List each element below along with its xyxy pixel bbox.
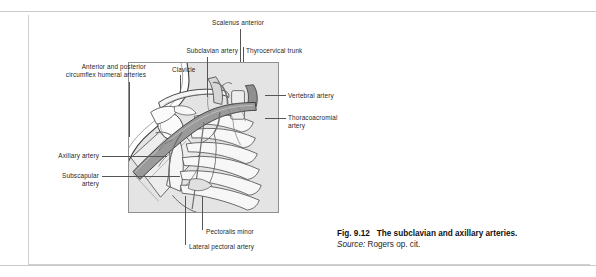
caption-source-label: Source: xyxy=(337,240,365,249)
label-circumflex-humeral-arteries: Anterior and posterior circumflex humera… xyxy=(50,63,146,80)
figure-caption: Fig. 9.12The subclavian and axillary art… xyxy=(337,228,587,250)
label-axillary-artery: Axillary artery xyxy=(33,152,99,160)
caption-title-line: Fig. 9.12The subclavian and axillary art… xyxy=(337,228,587,239)
label-subscapular-artery: Subscapular artery xyxy=(33,172,99,189)
leader-pectoralis-minor xyxy=(202,196,203,230)
leader-scalenus-anterior xyxy=(240,29,241,62)
caption-source-line: Source: Rogers op. cit. xyxy=(337,239,587,250)
leader-axillary-artery xyxy=(102,156,167,157)
leader-thoracoacromial-artery xyxy=(265,118,286,119)
label-thoracoacromial-artery: Thoracoacromial artery xyxy=(288,114,352,131)
label-subclavian-artery: Subclavian artery xyxy=(162,47,238,55)
page-rule-bottom xyxy=(0,265,596,266)
caption-figure-number: Fig. 9.12 xyxy=(337,229,370,238)
label-thyrocervical-trunk: Thyrocervical trunk xyxy=(246,47,336,55)
leader-vertebral-artery xyxy=(265,95,286,96)
leader-circumflex-humeral-arteries xyxy=(129,82,130,137)
page-rule-top xyxy=(0,11,596,12)
caption-title-text: The subclavian and axillary arteries. xyxy=(377,229,518,238)
leader-subclavian-artery xyxy=(207,57,208,97)
caption-source-text: Rogers op. cit. xyxy=(368,240,421,249)
leader-thyrocervical-trunk xyxy=(243,47,244,62)
label-vertebral-artery: Vertebral artery xyxy=(288,92,358,100)
anatomical-illustration xyxy=(128,62,279,213)
leader-lateral-pectoral-artery xyxy=(185,196,186,245)
leader-subscapular-artery xyxy=(102,176,180,177)
label-scalenus-anterior: Scalenus anterior xyxy=(198,19,278,27)
label-lateral-pectoral-artery: Lateral pectoral artery xyxy=(189,243,279,251)
label-clavicle: Clavicle xyxy=(172,66,218,74)
leader-clavicle xyxy=(180,75,181,93)
label-pectoralis-minor: Pectoralis minor xyxy=(206,228,272,236)
